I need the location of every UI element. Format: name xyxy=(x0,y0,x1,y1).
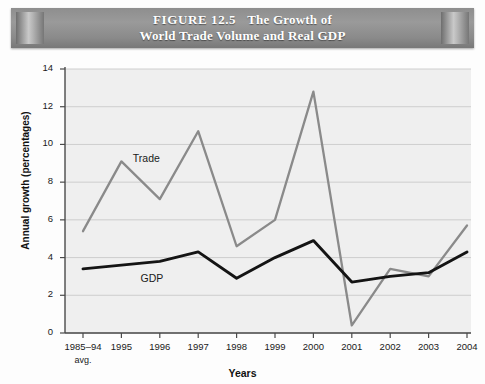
series-label-trade: Trade xyxy=(133,152,160,164)
figure-title-banner: FIGURE 12.5The Growth of World Trade Vol… xyxy=(11,8,474,48)
y-axis-tick-label: 12 xyxy=(27,100,53,111)
figure-number: FIGURE 12.5 xyxy=(153,12,236,27)
figure-title: FIGURE 12.5The Growth of World Trade Vol… xyxy=(11,12,474,44)
series-label-gdp: GDP xyxy=(141,272,164,284)
chart-plot-area: 02468101214 Annual growth (percentages) … xyxy=(0,55,485,340)
x-axis-tick-sublabel: avg. xyxy=(57,355,109,365)
figure-page: FIGURE 12.5The Growth of World Trade Vol… xyxy=(0,0,485,384)
y-axis-tick-label: 2 xyxy=(27,288,53,299)
y-axis-tick-label: 10 xyxy=(27,137,53,148)
x-axis-label: Years xyxy=(0,367,485,379)
y-axis-label: Annual growth (percentages) xyxy=(20,96,31,266)
y-axis-tick-label: 6 xyxy=(27,213,53,224)
chart-canvas xyxy=(0,55,485,340)
figure-title-line2: World Trade Volume and Real GDP xyxy=(139,28,345,43)
y-axis-tick-label: 4 xyxy=(27,251,53,262)
x-axis-tick-label: 2004 xyxy=(441,341,485,352)
figure-title-line1: The Growth of xyxy=(247,12,332,27)
y-axis-tick-label: 14 xyxy=(27,62,53,73)
y-axis-tick-label: 8 xyxy=(27,175,53,186)
y-axis-tick-label: 0 xyxy=(27,326,53,337)
